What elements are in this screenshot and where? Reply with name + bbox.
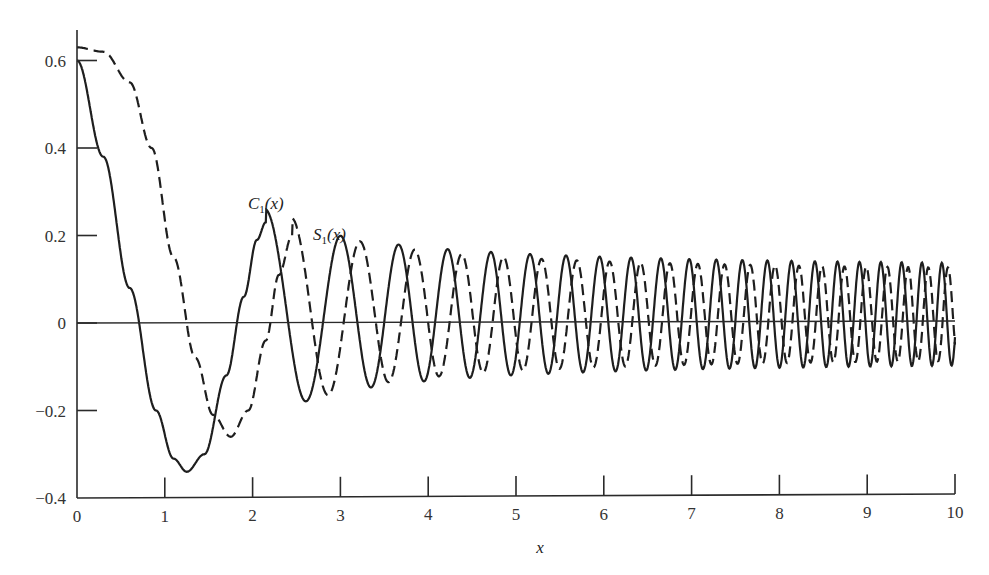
y-tick-label: 0.4 [45,139,67,158]
x-tick-label: 4 [424,505,433,524]
x-tick-label: 0 [73,507,82,526]
s1-curve [77,47,955,436]
y-ticks: −0.4−0.200.20.40.6 [35,52,97,509]
x-tick-label: 3 [336,506,345,525]
x-tick-label: 8 [775,504,784,523]
curve-labels: C1(x) S1(x) [248,194,346,246]
x-tick-label: 10 [947,503,964,522]
chart: −0.4−0.200.20.40.6 012345678910 x C1(x) … [0,0,989,575]
c1-label-main: C [248,194,260,213]
c1-label: C1(x) [248,194,284,215]
x-tick-label: 6 [600,505,609,524]
s1-label-arg: (x) [327,225,346,244]
x-ticks: 012345678910 [73,474,964,526]
x-axis-label: x [535,538,544,557]
c1-label-arg: (x) [265,194,284,213]
x-tick-label: 5 [512,505,521,524]
zero-line [77,321,955,323]
x-tick-label: 9 [863,503,872,522]
x-axis: 012345678910 x [73,474,964,557]
y-axis: −0.4−0.200.20.40.6 [35,30,97,508]
plot-area [77,47,955,471]
y-tick-label: 0.2 [45,227,66,246]
y-tick-label: 0.6 [45,52,66,71]
s1-label: S1(x) [313,225,346,246]
x-tick-label: 7 [687,504,696,523]
y-tick-label: −0.4 [35,489,66,508]
y-tick-label: 0 [58,314,67,333]
x-tick-label: 2 [248,506,257,525]
x-tick-label: 1 [161,507,170,526]
y-tick-label: −0.2 [35,402,66,421]
